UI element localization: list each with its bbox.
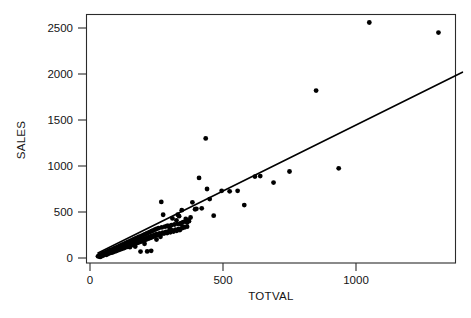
data-point	[142, 241, 147, 246]
data-point	[203, 136, 208, 141]
y-tick-label: 2000	[47, 68, 73, 80]
plot-area-border	[87, 15, 456, 264]
regression-line	[98, 72, 462, 253]
data-point	[181, 224, 186, 229]
data-point	[271, 180, 276, 185]
x-axis-ticks: 05001000	[87, 263, 369, 286]
data-point	[127, 245, 132, 250]
y-tick-label: 1500	[47, 114, 73, 126]
data-point	[197, 176, 202, 181]
data-point	[167, 226, 172, 231]
data-point	[199, 206, 204, 211]
data-point	[158, 234, 163, 239]
data-point	[161, 212, 166, 217]
y-axis-ticks: 05001000150020002500	[47, 22, 86, 264]
x-tick-label: 1000	[343, 274, 369, 286]
plot-frame	[87, 15, 456, 264]
scatter-points	[96, 20, 441, 259]
data-point	[205, 187, 210, 192]
data-point	[190, 200, 195, 205]
x-axis-title: TOTVAL	[248, 290, 294, 302]
data-point	[159, 199, 164, 204]
data-point	[242, 203, 247, 208]
data-point	[258, 174, 263, 179]
x-tick-label: 0	[87, 274, 93, 286]
data-point	[194, 206, 199, 211]
data-point	[235, 188, 240, 193]
chart-canvas: 05001000150020002500 05001000 TOTVAL SAL…	[0, 0, 471, 318]
data-point	[287, 169, 292, 174]
data-point	[138, 249, 143, 254]
data-point	[367, 20, 372, 25]
regression-line-segment	[98, 72, 462, 253]
data-point	[188, 215, 193, 220]
data-point	[154, 237, 159, 242]
y-tick-label: 2500	[47, 22, 73, 34]
y-tick-label: 1000	[47, 160, 73, 172]
data-point	[149, 248, 154, 253]
data-point	[314, 88, 319, 93]
y-tick-label: 0	[67, 252, 73, 264]
data-point	[211, 213, 216, 218]
data-point	[436, 30, 441, 35]
y-tick-label: 500	[54, 206, 73, 218]
y-axis-title: SALES	[15, 121, 27, 160]
data-point	[227, 189, 232, 194]
data-point	[336, 166, 341, 171]
data-point	[133, 244, 138, 249]
x-tick-label: 500	[213, 274, 232, 286]
data-point	[174, 218, 179, 223]
scatter-plot-figure: 05001000150020002500 05001000 TOTVAL SAL…	[0, 0, 471, 318]
